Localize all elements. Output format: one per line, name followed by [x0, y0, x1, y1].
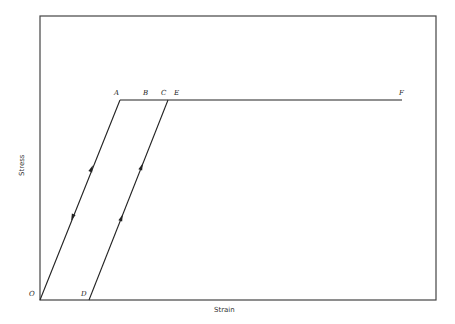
arrow-up-icon [118, 214, 124, 222]
label-b: B [142, 89, 148, 97]
label-o: O [29, 290, 35, 298]
arrow-up-icon [138, 163, 144, 171]
stress-strain-diagram: A B C E F O D Strain Stress [0, 0, 455, 324]
label-d: D [80, 290, 87, 298]
y-axis-label: Stress [18, 154, 26, 176]
label-a: A [113, 89, 119, 97]
label-e: E [173, 89, 179, 97]
plot-frame [40, 16, 436, 300]
line-dc [89, 100, 168, 300]
line-oa [40, 100, 120, 300]
x-axis-label: Strain [214, 306, 235, 314]
label-f: F [398, 89, 405, 97]
label-c: C [161, 89, 167, 97]
